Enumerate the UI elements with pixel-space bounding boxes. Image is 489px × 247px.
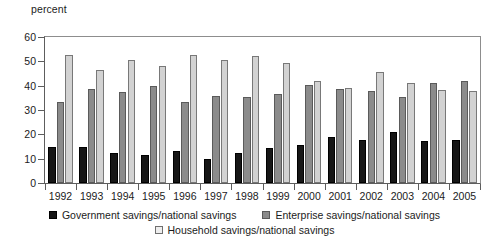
x-axis-tick [387,184,388,190]
y-axis-tick-label: 60 [14,31,36,43]
bar-enterprise [88,89,95,183]
bar-enterprise [305,85,312,183]
bar-government [79,147,86,184]
bar-enterprise [57,102,64,183]
bar-group [138,37,169,183]
bar-household [221,60,228,183]
x-axis-tick-label: 1995 [142,190,165,202]
bar-group [263,37,294,183]
x-axis-tick [76,184,77,190]
bar-group [76,37,107,183]
bar-group [200,37,231,183]
bar-government [235,153,242,183]
x-axis-tick-label: 2003 [391,190,414,202]
x-axis-tick-label: 1992 [49,190,72,202]
bar-household [407,83,414,183]
y-axis-tick [38,183,45,184]
bar-group [325,37,356,183]
legend-item-enterprise: Enterprise savings/national savings [262,209,440,221]
bar-household [438,90,445,183]
x-axis-tick-label: 1999 [266,190,289,202]
y-axis-tick [38,86,45,87]
bar-government [328,137,335,183]
bar-household [469,91,476,183]
bar-government [359,140,366,183]
bar-household [283,63,290,183]
bar-government [452,140,459,183]
bar-group [356,37,387,183]
x-axis-tick-label: 1994 [111,190,134,202]
y-axis-tick-label: 20 [14,128,36,140]
bar-government [204,159,211,183]
bar-government [297,145,304,183]
legend-row-secondary: Household savings/national savings [0,224,489,236]
y-axis-tick-label: 0 [14,177,36,189]
legend-label-government: Government savings/national savings [62,209,237,221]
bar-group [169,37,200,183]
y-axis-tick [38,61,45,62]
y-axis-tick-label: 10 [14,153,36,165]
legend-swatch-household-icon [155,226,163,234]
y-axis-tick [38,134,45,135]
x-axis-tick-label: 1998 [235,190,258,202]
x-axis-tick [263,184,264,190]
bar-group [107,37,138,183]
bar-group [449,37,480,183]
bar-enterprise [461,81,468,183]
bar-household [159,66,166,183]
bar-household [65,55,72,183]
bar-enterprise [181,102,188,183]
x-axis-tick-label: 1997 [204,190,227,202]
bar-household [345,88,352,183]
bar-enterprise [119,92,126,183]
bar-enterprise [212,96,219,183]
y-axis-tick-label: 30 [14,104,36,116]
legend-label-household: Household savings/national savings [168,224,335,236]
x-axis-tick-label: 1996 [173,190,196,202]
x-axis-tick [231,184,232,190]
legend-item-government: Government savings/national savings [49,209,237,221]
x-axis-tick [169,184,170,190]
bar-group [45,37,76,183]
bar-government [141,155,148,183]
x-axis-tick [418,184,419,190]
y-axis-unit-label: percent [31,3,67,15]
bar-household [314,81,321,183]
legend-swatch-government-icon [49,211,57,219]
bar-group [231,37,262,183]
bar-household [376,72,383,183]
x-axis-tick [294,184,295,190]
x-axis-tick [138,184,139,190]
y-axis-tick-label: 40 [14,80,36,92]
bar-enterprise [430,83,437,183]
bar-household [252,56,259,183]
x-axis-tick-label: 2002 [360,190,383,202]
legend-row-primary: Government savings/national savings Ente… [0,209,489,221]
x-axis-tick [107,184,108,190]
bar-government [110,153,117,183]
x-axis-tick-label: 1993 [80,190,103,202]
x-axis-tick [45,184,46,190]
bar-enterprise [243,97,250,183]
x-axis-tick-label: 2000 [297,190,320,202]
bar-household [96,70,103,183]
y-axis-tick [38,37,45,38]
bar-government [390,132,397,183]
bar-government [266,148,273,183]
bar-chart-figure: percent 0102030405060 199219931994199519… [0,0,489,247]
x-axis-tick-label: 2005 [453,190,476,202]
bar-enterprise [150,86,157,183]
bar-enterprise [368,91,375,183]
bar-group [418,37,449,183]
bar-household [190,55,197,183]
x-axis-tick [480,184,481,190]
legend-item-household: Household savings/national savings [155,224,335,236]
bar-enterprise [336,89,343,183]
x-axis-tick [356,184,357,190]
bar-group [387,37,418,183]
y-axis-tick-label: 50 [14,55,36,67]
bar-government [173,151,180,183]
bar-government [48,147,55,183]
bar-government [421,141,428,183]
x-axis-tick [200,184,201,190]
